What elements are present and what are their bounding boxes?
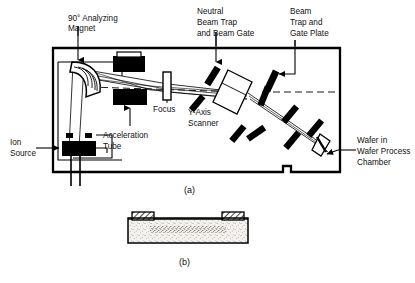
beam-trap-gate-plate-label-line2: Trap and [290,18,323,27]
implanted-region [150,226,226,233]
panel-a-caption: (a) [184,185,195,195]
ion-source-label-line1: Ion [10,138,22,147]
ion-source-label-line2: Source [10,149,36,158]
neutral-beam-trap-label-line3: and Beam Gate [197,29,255,38]
ion-implanter-figure: 90° Analyzing Magnet Neutral Beam Trap a… [0,0,415,283]
figure-canvas: 90° Analyzing Magnet Neutral Beam Trap a… [0,0,415,283]
focus-electrode [163,72,171,100]
y-axis-scanner-label-line2: Scanner [188,119,219,128]
mask-block-left [132,212,154,220]
magnet-yoke-box [113,52,145,72]
y-axis-scanner-label-line1: Y-Axis [188,108,211,117]
wafer-chamber-label-line2: Wafer Process [357,147,410,156]
beam-trap-gate-plate-label-line1: Beam [290,7,312,16]
panel-b-caption: (b) [179,257,190,267]
neutral-beam-trap-label-line2: Beam Trap [197,18,237,27]
acceleration-tube-label-line1: Acceleration [103,131,149,140]
analyzing-magnet-label-line2: Magnet [68,24,96,33]
wafer-chamber-label-line3: Chamber [357,158,391,167]
wafer-chamber-label-line1: Wafer in [357,136,388,145]
focus-label: Focus [153,105,175,114]
beam-trap-gate-plate-label-line3: Gate Plate [290,29,329,38]
mask-block-right [222,212,244,220]
analyzing-magnet-label-line1: 90° Analyzing [68,14,118,23]
neutral-beam-trap-label-line1: Neutral [197,7,224,16]
acceleration-tube-label-line2: Tube [103,142,122,151]
